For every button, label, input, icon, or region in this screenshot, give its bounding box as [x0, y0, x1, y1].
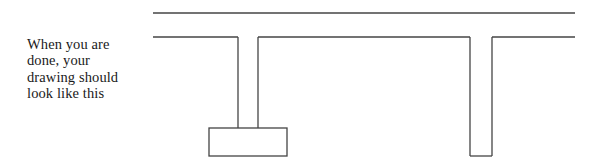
- i-beam-section-outline: [0, 0, 596, 168]
- foot-rectangle: [209, 128, 287, 156]
- figure-canvas: When you are done, your drawing should l…: [0, 0, 596, 168]
- line-drawing: [0, 0, 596, 168]
